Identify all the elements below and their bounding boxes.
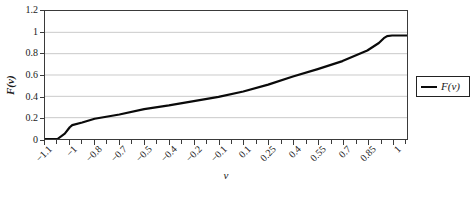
axis-tick xyxy=(368,140,369,145)
axis-tick xyxy=(318,140,319,145)
axis-tick xyxy=(293,140,294,145)
axis-tick xyxy=(44,140,45,145)
axis-tick xyxy=(40,32,44,33)
axis-tick xyxy=(393,140,394,145)
x-tick-label: −0.2 xyxy=(184,144,204,164)
x-tick-label: 0.1 xyxy=(238,144,254,160)
axis-tick xyxy=(405,140,406,144)
x-tick-label: 0.55 xyxy=(309,144,328,163)
y-tick-label: 1 xyxy=(0,26,38,38)
axis-tick xyxy=(169,140,170,145)
axis-tick xyxy=(106,140,107,144)
axis-tick xyxy=(268,140,269,145)
axis-tick xyxy=(40,10,44,11)
axis-tick xyxy=(69,140,70,145)
axis-tick xyxy=(306,140,307,144)
axis-tick xyxy=(281,140,282,144)
x-tick-label: −0.1 xyxy=(209,144,229,164)
legend: F(v) xyxy=(416,76,470,97)
axis-tick xyxy=(144,140,145,145)
axis-tick xyxy=(356,140,357,144)
axis-tick xyxy=(231,140,232,144)
axis-tick xyxy=(256,140,257,144)
y-tick-label: 1.2 xyxy=(0,4,38,16)
curve-svg xyxy=(45,11,407,139)
axis-tick xyxy=(181,140,182,144)
x-tick-label: −1.1 xyxy=(34,144,54,164)
data-series-line xyxy=(45,36,407,139)
y-tick-label: 0.6 xyxy=(0,69,38,81)
y-tick-label: 0.2 xyxy=(0,112,38,124)
plot-area xyxy=(44,10,408,140)
axis-tick xyxy=(206,140,207,144)
x-tick-label: 0.7 xyxy=(337,144,353,160)
axis-tick xyxy=(119,140,120,145)
chart-figure: F(v) 00.20.40.60.811.2 −1.1−1−0.8−0.7−0.… xyxy=(0,0,475,197)
y-tick-label: 0.8 xyxy=(0,47,38,59)
x-tick-label: −1 xyxy=(64,144,79,159)
axis-tick xyxy=(156,140,157,144)
x-tick-label: 1 xyxy=(392,144,403,155)
legend-line-sample xyxy=(421,86,437,88)
x-tick-label: −0.5 xyxy=(134,144,154,164)
y-tick-label: 0.4 xyxy=(0,91,38,103)
x-tick-label: 0.25 xyxy=(259,144,278,163)
axis-tick xyxy=(131,140,132,144)
axis-tick xyxy=(94,140,95,145)
axis-tick xyxy=(243,140,244,145)
axis-tick xyxy=(381,140,382,144)
axis-tick xyxy=(331,140,332,144)
axis-tick xyxy=(40,118,44,119)
x-tick-label: −0.7 xyxy=(109,144,129,164)
axis-tick xyxy=(56,140,57,144)
x-tick-label: 0.85 xyxy=(359,144,378,163)
axis-tick xyxy=(40,97,44,98)
axis-tick xyxy=(40,75,44,76)
y-tick-label: 0 xyxy=(0,134,38,146)
axis-tick xyxy=(219,140,220,145)
axis-tick xyxy=(81,140,82,144)
axis-tick xyxy=(343,140,344,145)
x-tick-label: 0.4 xyxy=(287,144,303,160)
x-tick-label: −0.4 xyxy=(159,144,179,164)
legend-label: F(v) xyxy=(441,81,460,92)
axis-tick xyxy=(194,140,195,145)
axis-tick xyxy=(40,53,44,54)
x-tick-label: −0.8 xyxy=(84,144,104,164)
x-axis-title: v xyxy=(194,169,258,181)
